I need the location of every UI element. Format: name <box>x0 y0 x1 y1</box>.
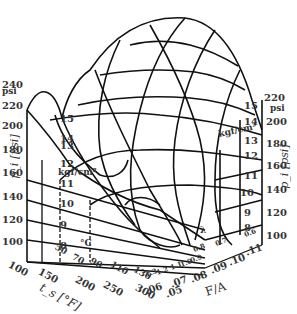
tick: 13 <box>60 140 74 151</box>
tick: 100 <box>2 236 23 247</box>
left-kgf-unit: kgf/cm² <box>58 167 97 177</box>
left-psi-unit: psi <box>2 86 17 96</box>
tick: 200 <box>266 116 287 127</box>
tick: 9 <box>60 219 67 230</box>
tick: 100 <box>266 230 287 241</box>
tick: 9 <box>244 207 251 218</box>
c-unit: °C <box>80 238 92 248</box>
tick: 15 <box>60 113 74 124</box>
tick: 11 <box>60 178 74 189</box>
right-axis-title: p_i [psi] <box>278 144 291 188</box>
tick: 200 <box>2 120 23 131</box>
tick: 220 <box>2 100 23 111</box>
tick: 10 <box>240 187 254 198</box>
tick: 120 <box>266 207 287 218</box>
tick: 15 <box>244 100 258 111</box>
tick: 140 <box>2 191 23 202</box>
tick: 120 <box>2 214 23 225</box>
left-axis-title: p_i [psi] <box>8 134 21 178</box>
tick: 11 <box>244 170 258 181</box>
tick: 220 <box>264 92 285 103</box>
tick: 13 <box>244 135 258 146</box>
right-psi-unit: psi <box>270 103 285 113</box>
tick: 10 <box>60 198 74 209</box>
lambda-label: λ <box>200 225 206 235</box>
tick: 12 <box>244 150 258 161</box>
